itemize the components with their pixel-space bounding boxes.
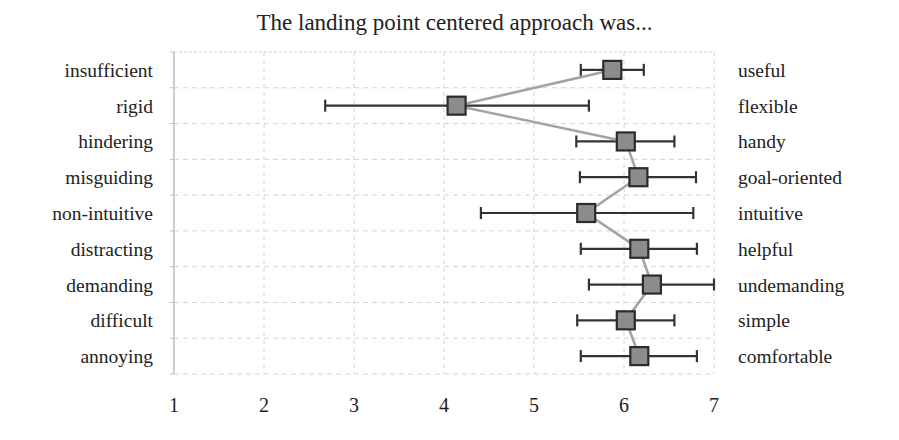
square-marker-icon	[630, 240, 648, 258]
right-label: useful	[738, 60, 786, 81]
right-label: undemanding	[738, 275, 844, 296]
left-label: difficult	[91, 310, 154, 331]
left-label: distracting	[71, 239, 154, 260]
left-label: demanding	[66, 275, 153, 296]
square-marker-icon	[617, 311, 635, 329]
square-marker-icon	[630, 347, 648, 365]
right-label: handy	[738, 131, 786, 152]
right-label: helpful	[738, 239, 794, 260]
right-category-labels: usefulflexiblehandygoal-orientedintuitiv…	[738, 60, 844, 367]
x-tick-label: 4	[439, 394, 449, 416]
x-tick-label: 6	[619, 394, 629, 416]
left-label: misguiding	[65, 167, 153, 188]
x-tick-label: 1	[169, 394, 179, 416]
left-label: non-intuitive	[52, 203, 153, 224]
chart: The landing point centered approach was.…	[0, 0, 899, 440]
x-tick-label: 2	[259, 394, 269, 416]
x-axis-tick-labels: 1234567	[169, 394, 719, 416]
left-label: annoying	[80, 346, 153, 367]
x-tick-label: 7	[709, 394, 719, 416]
right-label: comfortable	[738, 346, 832, 367]
error-bars	[325, 64, 714, 362]
square-marker-icon	[643, 276, 661, 294]
x-tick-label: 3	[349, 394, 359, 416]
x-tick-label: 5	[529, 394, 539, 416]
square-marker-icon	[577, 204, 595, 222]
right-label: flexible	[738, 96, 798, 117]
square-marker-icon	[629, 168, 647, 186]
square-marker-icon	[617, 132, 635, 150]
left-category-labels: insufficientrigidhinderingmisguidingnon-…	[52, 60, 153, 367]
right-label: intuitive	[738, 203, 803, 224]
square-marker-icon	[448, 97, 466, 115]
left-label: rigid	[116, 96, 153, 117]
square-marker-icon	[603, 61, 621, 79]
plot-area: insufficientrigidhinderingmisguidingnon-…	[0, 0, 899, 440]
right-label: goal-oriented	[738, 167, 842, 188]
left-label: insufficient	[65, 60, 154, 81]
right-label: simple	[738, 310, 790, 331]
left-label: hindering	[78, 131, 153, 152]
